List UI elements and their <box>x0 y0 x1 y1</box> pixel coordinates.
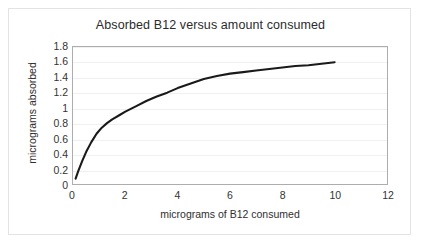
chart-screenshot: Absorbed B12 versus amount consumed micr… <box>0 0 421 245</box>
x-axis-tick-labels: 024681012 <box>72 189 388 205</box>
x-axis-tick-label: 10 <box>320 189 350 201</box>
x-axis-tick-label: 8 <box>268 189 298 201</box>
x-axis-title: micrograms of B12 consumed <box>72 208 388 220</box>
x-axis-tick-label: 2 <box>110 189 140 201</box>
y-axis-tick-label: 1.4 <box>40 72 68 82</box>
y-axis-tick-label: 0.6 <box>40 134 68 144</box>
chart-title: Absorbed B12 versus amount consumed <box>0 18 421 32</box>
x-axis-tick-label: 0 <box>57 189 87 201</box>
y-axis-tick-label: 1 <box>40 103 68 113</box>
x-axis-tick-label: 4 <box>162 189 192 201</box>
line-series-path <box>76 62 335 178</box>
y-axis-title: micrograms absorbed <box>26 43 38 183</box>
x-axis-tick-label: 6 <box>215 189 245 201</box>
y-axis-tick-label: 0.4 <box>40 149 68 159</box>
line-series-svg <box>73 47 387 184</box>
y-axis-tick-label: 1.6 <box>40 56 68 66</box>
y-axis-tick-label: 0.8 <box>40 118 68 128</box>
y-axis-tick-label: 1.8 <box>40 41 68 51</box>
y-axis-tick-labels: 00.20.40.60.811.21.41.61.8 <box>40 46 68 185</box>
x-axis-tick-label: 12 <box>373 189 403 201</box>
y-axis-tick-label: 1.2 <box>40 87 68 97</box>
y-axis-tick-label: 0.2 <box>40 165 68 175</box>
plot-area <box>72 46 388 185</box>
